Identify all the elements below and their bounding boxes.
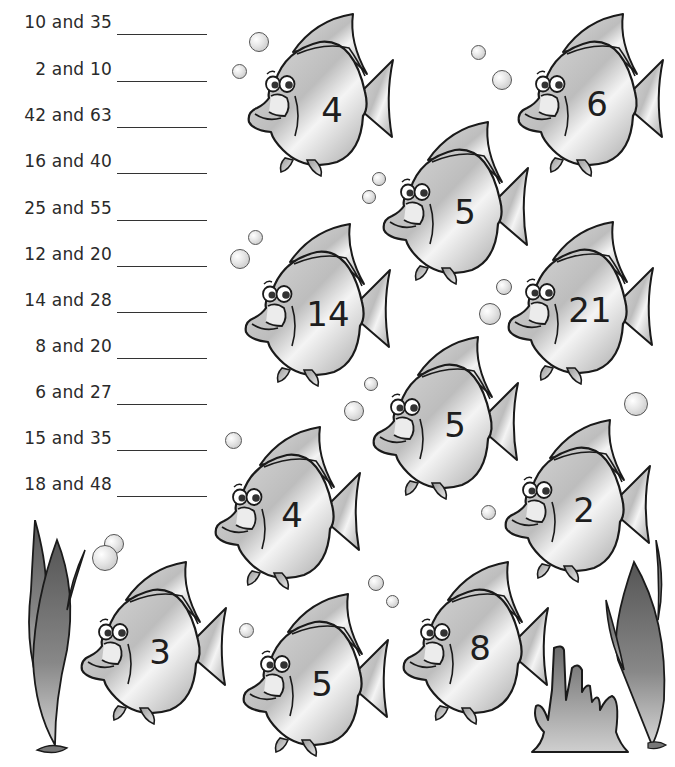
fish-card: 21 [505,220,655,390]
fish-number: 6 [586,87,608,121]
bubble-icon [368,575,384,591]
fish-number: 8 [469,631,491,665]
fish-number: 5 [311,667,333,701]
fish-card: 5 [370,335,520,505]
bubble-icon [481,505,496,520]
fish-number: 4 [281,498,303,532]
bubble-icon [624,392,648,416]
fish-icon [245,12,395,182]
fish-number: 2 [573,493,595,527]
fish-number: 4 [321,93,343,127]
bubble-icon [492,70,512,90]
bubble-icon [471,45,486,60]
bubble-icon [344,401,364,421]
fish-number: 5 [454,195,476,229]
fish-card: 4 [212,425,362,595]
fish-card: 8 [400,560,550,730]
fish-number: 3 [149,635,171,669]
bubble-icon [362,190,376,204]
fish-card: 5 [240,592,390,762]
fish-card: 6 [515,12,665,182]
fish-number: 5 [444,408,466,442]
fish-number: 14 [306,297,349,331]
bubble-icon [479,303,501,325]
fish-card: 3 [78,560,228,730]
fish-card: 4 [245,12,395,182]
fish-number: 21 [568,293,611,327]
fish-scene: 4 6 5 14 21 5 4 2 3 5 8 [0,0,675,767]
